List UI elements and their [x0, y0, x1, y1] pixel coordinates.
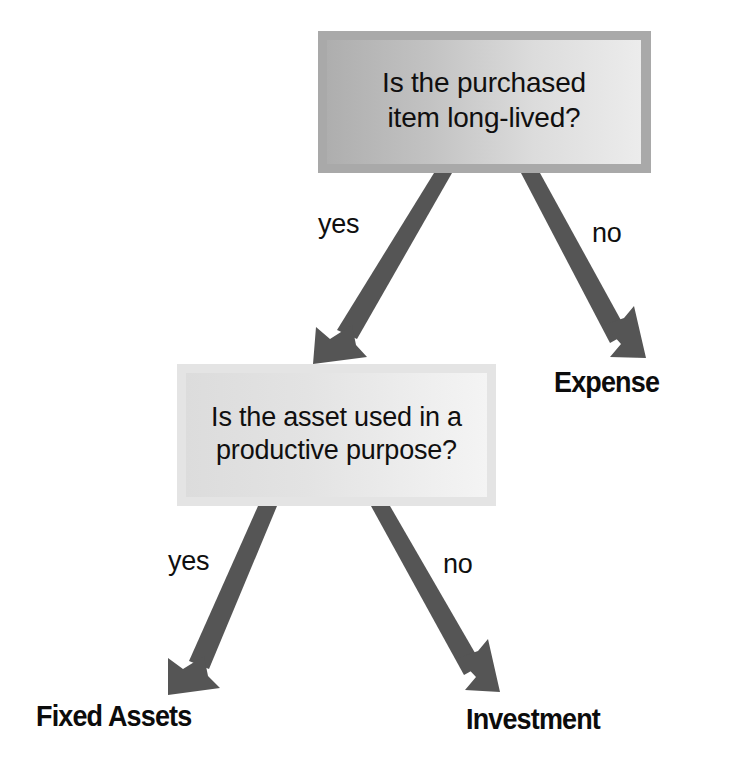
decision-node-asset-productive-purpose[interactable]: Is the asset used in a productive purpos… — [177, 364, 496, 506]
decision-tree-diagram: question-2 : from box1 bottom-left, down… — [0, 0, 746, 784]
edge-label-yes-top: yes — [318, 209, 359, 240]
outcome-node-expense: Expense — [554, 366, 659, 399]
outcome-node-investment: Investment — [466, 703, 600, 736]
edge-label-no-top: no — [592, 218, 622, 249]
decision-node-1-label: Is the purchased item long-lived? — [382, 66, 586, 137]
edge-label-yes-bottom: yes — [168, 546, 209, 577]
edge-yes-1-arrow — [313, 173, 452, 364]
decision-node-2-face: Is the asset used in a productive purpos… — [186, 373, 487, 497]
edge-label-no-bottom: no — [443, 549, 473, 580]
decision-node-1-face: Is the purchased item long-lived? — [327, 40, 641, 164]
outcome-node-fixed-assets: Fixed Assets — [36, 700, 191, 733]
decision-node-2-label: Is the asset used in a productive purpos… — [211, 401, 462, 470]
edge-no-1-arrow — [521, 173, 646, 358]
edge-no-2-arrow — [371, 506, 500, 692]
decision-node-purchased-item-long-lived[interactable]: Is the purchased item long-lived? — [318, 31, 651, 173]
edge-yes-2-arrow — [168, 506, 277, 695]
